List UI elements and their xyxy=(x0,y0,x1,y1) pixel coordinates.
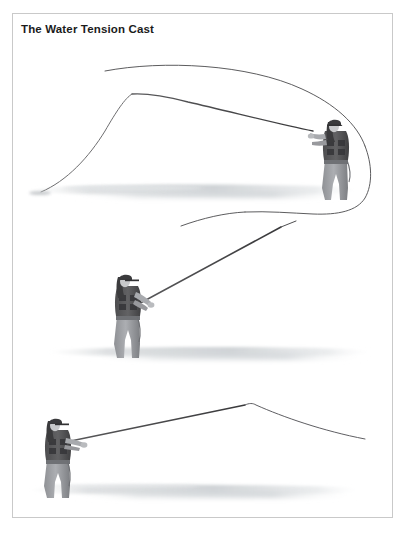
fly-line-front xyxy=(245,404,365,440)
water-reflection xyxy=(63,492,363,498)
angler-figure-middle xyxy=(114,275,154,358)
fly-rod-tip xyxy=(281,221,296,227)
fly-rod xyxy=(133,227,281,307)
panel-top xyxy=(29,65,371,226)
panel-bottom-water xyxy=(28,484,368,498)
cap-crown xyxy=(49,419,62,424)
fly-line-loop-nose xyxy=(245,146,371,214)
panel-top-water xyxy=(30,185,366,199)
vest-pocket-lower-right xyxy=(338,149,345,155)
fly-line-lower xyxy=(181,212,245,226)
panel-middle-water xyxy=(48,347,378,360)
line-waterline-contact xyxy=(29,191,51,195)
fly-rod-upper-section xyxy=(132,94,313,131)
cap-brim xyxy=(55,424,69,426)
figure-frame: The Water Tension Cast xyxy=(12,13,393,518)
water-reflection xyxy=(63,192,363,198)
cap-crown xyxy=(328,120,341,125)
water-reflection xyxy=(83,354,373,360)
hand-upper xyxy=(308,133,314,138)
water-highlight xyxy=(63,186,203,191)
panel-middle xyxy=(48,221,378,360)
vest-pocket-right xyxy=(338,140,345,146)
cap-brim xyxy=(125,280,139,282)
panel-bottom xyxy=(28,404,368,499)
cap-brim xyxy=(327,125,343,127)
cap-crown xyxy=(119,275,132,280)
vest-pocket-lower-left xyxy=(327,149,334,155)
hand-grip xyxy=(81,442,88,448)
page-canvas: The Water Tension Cast xyxy=(0,0,408,537)
water-highlight xyxy=(48,484,198,489)
illustration-artwork xyxy=(13,14,394,519)
fly-line-back-drop xyxy=(41,94,132,192)
arm-lower xyxy=(312,140,327,146)
hand-grip xyxy=(148,302,155,308)
fly-rod xyxy=(61,405,245,443)
vest-pocket-lower-left xyxy=(49,448,56,454)
vest-pocket-lower-left xyxy=(119,304,126,310)
